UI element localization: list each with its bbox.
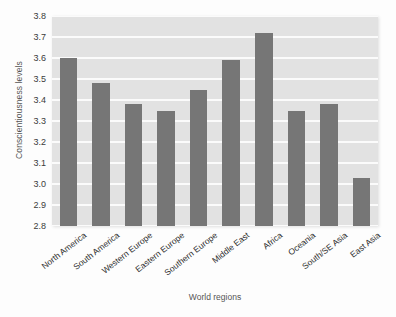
y-axis-title: Conscientiousness levels bbox=[14, 20, 24, 200]
y-tick-label: 3.8 bbox=[6, 11, 52, 21]
y-tick-label: 3.7 bbox=[6, 32, 52, 42]
x-axis-ticks: North AmericaSouth AmericaWestern Europe… bbox=[52, 226, 378, 286]
y-tick-label: 3.1 bbox=[6, 158, 52, 168]
y-tick-label: 3.3 bbox=[6, 116, 52, 126]
y-tick-label: 2.8 bbox=[6, 221, 52, 231]
y-tick-label: 3.2 bbox=[6, 137, 52, 147]
y-tick-label: 3.6 bbox=[6, 53, 52, 63]
y-axis-ticks: 2.82.93.03.13.23.33.43.53.63.73.8 bbox=[52, 16, 378, 226]
x-axis-title: World regions bbox=[52, 292, 378, 302]
y-tick-label: 2.9 bbox=[6, 200, 52, 210]
y-tick-label: 3.5 bbox=[6, 74, 52, 84]
y-tick-label: 3.0 bbox=[6, 179, 52, 189]
bar-chart: Conscientiousness levels 2.82.93.03.13.2… bbox=[0, 0, 396, 317]
y-tick-label: 3.4 bbox=[6, 95, 52, 105]
